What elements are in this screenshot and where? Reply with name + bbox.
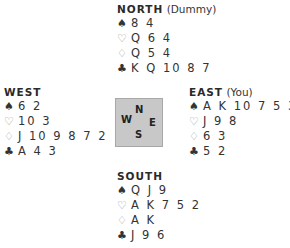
- diamonds-row: ♢ A K: [117, 213, 201, 228]
- seat-label: WEST: [4, 86, 41, 98]
- clubs-cards: A 4 3: [18, 144, 58, 159]
- club-icon: ♣: [117, 228, 131, 243]
- clubs-cards: K Q 10 8 7: [131, 61, 211, 76]
- spade-icon: ♠: [117, 16, 131, 31]
- diamonds-row: ♢ 6 3: [189, 129, 290, 144]
- spade-icon: ♠: [4, 99, 18, 114]
- diamonds-row: ♢ J 10 9 8 7 2: [4, 129, 108, 144]
- diamonds-row: ♢ Q 5 4: [117, 46, 216, 61]
- hearts-row: ♡ J 9 8: [189, 114, 290, 129]
- clubs-row: ♣ 5 2: [189, 144, 290, 159]
- diamonds-cards: J 10 9 8 7 2: [18, 129, 108, 144]
- west-title: WEST: [4, 86, 108, 99]
- diamond-icon: ♢: [117, 46, 131, 61]
- hearts-cards: 10 3: [18, 114, 52, 129]
- west-hand: WEST ♠ 6 2 ♡ 10 3 ♢ J 10 9 8 7 2 ♣ A 4 3: [4, 86, 108, 159]
- east-title: EAST (You): [189, 86, 290, 99]
- role-label: (Dummy): [167, 3, 217, 15]
- seat-label: NORTH: [117, 3, 163, 15]
- spade-icon: ♠: [189, 99, 203, 114]
- spade-icon: ♠: [117, 183, 131, 198]
- clubs-cards: J 9 6: [131, 228, 166, 243]
- hearts-row: ♡ A K 7 5 2: [117, 198, 201, 213]
- diamonds-cards: 6 3: [203, 129, 227, 144]
- spades-cards: 8 4: [131, 16, 155, 31]
- club-icon: ♣: [117, 61, 131, 76]
- hearts-row: ♡ Q 6 4: [117, 31, 216, 46]
- seat-label: EAST: [189, 86, 223, 98]
- clubs-row: ♣ J 9 6: [117, 228, 201, 243]
- clubs-row: ♣ K Q 10 8 7: [117, 61, 216, 76]
- heart-icon: ♡: [117, 198, 131, 213]
- spades-cards: A K 10 7 5 3: [203, 99, 290, 114]
- compass-box: N W E S: [115, 98, 163, 147]
- diamonds-cards: A K: [131, 213, 156, 228]
- heart-icon: ♡: [4, 114, 18, 129]
- diamond-icon: ♢: [189, 129, 203, 144]
- seat-label: SOUTH: [117, 170, 163, 182]
- east-hand: EAST (You) ♠ A K 10 7 5 3 ♡ J 9 8 ♢ 6 3 …: [189, 86, 290, 159]
- north-title: NORTH (Dummy): [117, 3, 216, 16]
- hearts-cards: J 9 8: [203, 114, 238, 129]
- spades-row: ♠ A K 10 7 5 3: [189, 99, 290, 114]
- south-hand: SOUTH ♠ Q J 9 ♡ A K 7 5 2 ♢ A K ♣ J 9 6: [117, 170, 201, 243]
- south-title: SOUTH: [117, 170, 201, 183]
- north-hand: NORTH (Dummy) ♠ 8 4 ♡ Q 6 4 ♢ Q 5 4 ♣ K …: [117, 3, 216, 76]
- compass-north: N: [135, 104, 143, 115]
- heart-icon: ♡: [117, 31, 131, 46]
- diamond-icon: ♢: [117, 213, 131, 228]
- diamonds-cards: Q 5 4: [131, 46, 172, 61]
- spades-row: ♠ Q J 9: [117, 183, 201, 198]
- compass-east: E: [149, 117, 156, 128]
- clubs-cards: 5 2: [203, 144, 227, 159]
- club-icon: ♣: [189, 144, 203, 159]
- hearts-cards: Q 6 4: [131, 31, 172, 46]
- compass-west: W: [121, 114, 132, 125]
- compass-south: S: [135, 129, 142, 140]
- role-label: (You): [226, 86, 252, 98]
- heart-icon: ♡: [189, 114, 203, 129]
- spades-row: ♠ 6 2: [4, 99, 108, 114]
- spades-cards: Q J 9: [131, 183, 168, 198]
- spades-cards: 6 2: [18, 99, 42, 114]
- diamond-icon: ♢: [4, 129, 18, 144]
- spades-row: ♠ 8 4: [117, 16, 216, 31]
- clubs-row: ♣ A 4 3: [4, 144, 108, 159]
- club-icon: ♣: [4, 144, 18, 159]
- hearts-cards: A K 7 5 2: [131, 198, 201, 213]
- hearts-row: ♡ 10 3: [4, 114, 108, 129]
